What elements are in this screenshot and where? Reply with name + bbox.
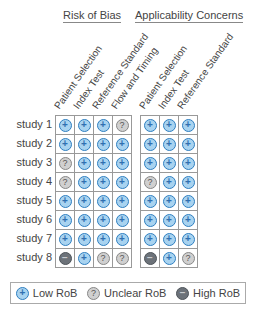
grid-cell: + — [75, 211, 94, 230]
grid-cell: + — [179, 192, 198, 211]
plus-circle-icon: + — [163, 138, 176, 151]
plus-circle-icon: + — [116, 157, 129, 170]
plus-circle-icon: + — [144, 157, 157, 170]
grid-cell: + — [141, 135, 160, 154]
grid-cell: + — [179, 230, 198, 249]
legend-label: High RoB — [193, 287, 240, 299]
grid-cell: + — [141, 116, 160, 135]
grid-cell: ? — [56, 173, 75, 192]
grid-cell: + — [56, 211, 75, 230]
group-title-applicability: Applicability Concerns — [135, 9, 243, 23]
legend-item-low: + Low RoB — [16, 287, 78, 300]
plus-circle-icon: + — [78, 176, 91, 189]
grid-cell: + — [94, 192, 113, 211]
grid-cell: + — [75, 173, 94, 192]
plus-circle-icon: + — [116, 214, 129, 227]
grid-cell: + — [56, 192, 75, 211]
grid-cell: + — [179, 154, 198, 173]
legend: + Low RoB ? Unclear RoB − High RoB — [10, 282, 246, 304]
minus-circle-icon: − — [176, 287, 189, 300]
row-label: study 6 — [8, 213, 52, 225]
grid-cell: + — [160, 135, 179, 154]
table-row: ?++ — [141, 173, 198, 192]
legend-label: Unclear RoB — [104, 287, 166, 299]
plus-circle-icon: + — [78, 119, 91, 132]
grid-cell: + — [56, 135, 75, 154]
table-row: +++ — [141, 211, 198, 230]
grid-cell: + — [75, 249, 94, 268]
question-circle-icon: ? — [59, 176, 72, 189]
grid-cell: + — [75, 230, 94, 249]
grid-cell: + — [113, 230, 132, 249]
plus-circle-icon: + — [97, 119, 110, 132]
grid-cell: + — [160, 192, 179, 211]
grid-cell: + — [160, 116, 179, 135]
plus-circle-icon: + — [116, 195, 129, 208]
plus-circle-icon: + — [16, 287, 29, 300]
plus-circle-icon: + — [78, 214, 91, 227]
plus-circle-icon: + — [163, 176, 176, 189]
minus-circle-icon: − — [59, 252, 72, 265]
legend-label: Low RoB — [33, 287, 78, 299]
grid-cell: ? — [56, 154, 75, 173]
table-row: +++ — [141, 192, 198, 211]
grid-cell: + — [160, 249, 179, 268]
plus-circle-icon: + — [97, 176, 110, 189]
plus-circle-icon: + — [182, 138, 195, 151]
grid-cell: + — [160, 154, 179, 173]
grid-cell: + — [113, 173, 132, 192]
grid-cell: ? — [179, 249, 198, 268]
row-label: study 5 — [8, 194, 52, 206]
group-title-risk-of-bias: Risk of Bias — [63, 9, 121, 23]
plus-circle-icon: + — [144, 119, 157, 132]
table-row: ++++ — [56, 192, 132, 211]
plus-circle-icon: + — [78, 195, 91, 208]
grid-cell: + — [113, 192, 132, 211]
plus-circle-icon: + — [182, 214, 195, 227]
grid-cell: + — [160, 211, 179, 230]
table-row: ++++ — [56, 230, 132, 249]
table-row: +++? — [56, 116, 132, 135]
grid-cell: + — [179, 173, 198, 192]
plus-circle-icon: + — [78, 252, 91, 265]
plus-circle-icon: + — [144, 233, 157, 246]
risk-of-bias-grid: +++?++++?+++?+++++++++++++++−+?? — [55, 115, 132, 268]
grid-cell: ? — [94, 249, 113, 268]
plus-circle-icon: + — [59, 119, 72, 132]
row-label: study 8 — [8, 251, 52, 263]
plus-circle-icon: + — [163, 119, 176, 132]
table-row: ++++ — [56, 135, 132, 154]
plus-circle-icon: + — [116, 176, 129, 189]
grid-cell: + — [141, 211, 160, 230]
grid-cell: + — [56, 116, 75, 135]
grid-cell: + — [94, 173, 113, 192]
plus-circle-icon: + — [116, 138, 129, 151]
question-circle-icon: ? — [97, 252, 110, 265]
plus-circle-icon: + — [163, 195, 176, 208]
plus-circle-icon: + — [59, 138, 72, 151]
table-row: +++ — [141, 135, 198, 154]
question-circle-icon: ? — [59, 157, 72, 170]
plus-circle-icon: + — [97, 233, 110, 246]
plus-circle-icon: + — [78, 157, 91, 170]
grid-cell: + — [94, 135, 113, 154]
table-row: ++++ — [56, 211, 132, 230]
row-label: study 4 — [8, 175, 52, 187]
table-row: +++ — [141, 116, 198, 135]
row-label: study 3 — [8, 156, 52, 168]
plus-circle-icon: + — [182, 233, 195, 246]
grid-cell: + — [75, 192, 94, 211]
plus-circle-icon: + — [144, 138, 157, 151]
grid-cell: − — [141, 249, 160, 268]
grid-cell: + — [141, 154, 160, 173]
grid-cell: + — [141, 192, 160, 211]
question-circle-icon: ? — [116, 252, 129, 265]
plus-circle-icon: + — [163, 214, 176, 227]
grid-cell: + — [94, 230, 113, 249]
plus-circle-icon: + — [59, 214, 72, 227]
grid-cell: + — [141, 230, 160, 249]
plus-circle-icon: + — [97, 157, 110, 170]
grid-cell: + — [113, 211, 132, 230]
grid-cell: + — [113, 135, 132, 154]
plus-circle-icon: + — [163, 252, 176, 265]
